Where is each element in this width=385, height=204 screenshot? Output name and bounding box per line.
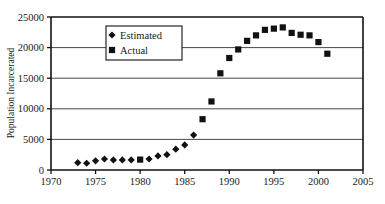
y-tick-label-0: 0 bbox=[39, 165, 44, 176]
population-incarcerated-scatter-chart: 0500010000150002000025000 19701975198019… bbox=[0, 0, 385, 204]
chart-legend: EstimatedActual bbox=[106, 26, 182, 60]
data-point-actual-2001 bbox=[324, 51, 330, 57]
y-tick-label-5000: 5000 bbox=[23, 134, 44, 145]
x-tick-label-2005: 2005 bbox=[353, 176, 374, 187]
x-tick-label-1975: 1975 bbox=[85, 176, 106, 187]
data-point-actual-2000 bbox=[315, 39, 321, 45]
legend-label-actual: Actual bbox=[120, 45, 148, 56]
data-point-actual-1992 bbox=[244, 38, 250, 44]
y-tick-label-25000: 25000 bbox=[18, 12, 44, 23]
x-tick-label-1990: 1990 bbox=[219, 176, 240, 187]
data-point-actual-1999 bbox=[306, 32, 312, 38]
x-tick-label-1985: 1985 bbox=[174, 176, 195, 187]
legend-label-estimated: Estimated bbox=[120, 30, 163, 41]
data-point-actual-1980 bbox=[137, 156, 143, 162]
chart-container: 0500010000150002000025000 19701975198019… bbox=[0, 0, 385, 204]
y-tick-label-20000: 20000 bbox=[18, 42, 44, 53]
data-point-actual-1991 bbox=[235, 46, 241, 52]
x-tick-label-1970: 1970 bbox=[41, 176, 62, 187]
chart-background bbox=[0, 0, 385, 204]
y-axis-title: Population Incarcerated bbox=[6, 48, 16, 139]
data-point-actual-1987 bbox=[199, 116, 205, 122]
x-tick-label-1980: 1980 bbox=[130, 176, 151, 187]
y-tick-label-10000: 10000 bbox=[18, 103, 44, 114]
x-tick-label-2000: 2000 bbox=[308, 176, 329, 187]
legend-marker-actual bbox=[109, 47, 115, 53]
data-point-actual-1994 bbox=[262, 27, 268, 33]
data-point-actual-1988 bbox=[208, 98, 214, 104]
data-point-actual-1997 bbox=[289, 30, 295, 36]
x-tick-label-1995: 1995 bbox=[263, 176, 284, 187]
y-tick-label-15000: 15000 bbox=[18, 73, 44, 84]
y-axis-title-group: Population Incarcerated bbox=[6, 48, 16, 139]
data-point-actual-1998 bbox=[298, 32, 304, 38]
data-point-actual-1990 bbox=[226, 55, 232, 61]
data-point-actual-1996 bbox=[280, 24, 286, 30]
data-point-actual-1995 bbox=[271, 26, 277, 32]
data-point-actual-1989 bbox=[217, 70, 223, 76]
data-point-actual-1993 bbox=[253, 32, 259, 38]
